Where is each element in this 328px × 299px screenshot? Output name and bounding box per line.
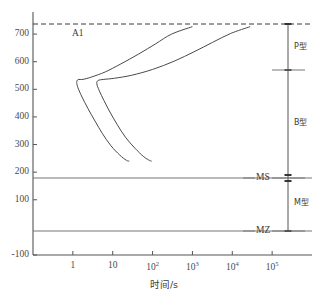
x-tick-label: 103 bbox=[176, 260, 208, 272]
transformation-start-curve bbox=[77, 27, 193, 161]
plot-canvas bbox=[0, 0, 328, 299]
x-tick-label: 102 bbox=[137, 260, 169, 272]
x-axis-title: 时间/s bbox=[0, 277, 328, 291]
x-tick-label: 104 bbox=[216, 260, 248, 272]
x-axis-ticks bbox=[73, 251, 272, 255]
y-tick-label: 600 bbox=[0, 56, 29, 66]
ms-label: MS bbox=[256, 172, 270, 182]
a1-label: A1 bbox=[72, 28, 84, 38]
y-axis-ticks bbox=[33, 34, 37, 255]
zone-label-b: B型 bbox=[294, 116, 308, 127]
y-tick-label: 300 bbox=[0, 139, 29, 149]
mz-label: MZ bbox=[256, 225, 270, 235]
y-tick-label: 100 bbox=[0, 194, 29, 204]
y-tick-label: 400 bbox=[0, 111, 29, 121]
x-tick-label: 1 bbox=[57, 260, 89, 270]
y-tick-label: -100 bbox=[0, 249, 29, 259]
zone-label-p: P型 bbox=[294, 40, 307, 51]
y-tick-label: 200 bbox=[0, 166, 29, 176]
zone-label-m: M型 bbox=[294, 196, 309, 207]
y-tick-label: 700 bbox=[0, 28, 29, 38]
x-tick-label: 105 bbox=[256, 260, 288, 272]
x-tick-label: 10 bbox=[97, 260, 129, 270]
transformation-finish-curve bbox=[97, 27, 250, 161]
y-tick-label: 500 bbox=[0, 83, 29, 93]
ttt-diagram: 700600500400300200100-100 11010210310410… bbox=[0, 0, 328, 299]
